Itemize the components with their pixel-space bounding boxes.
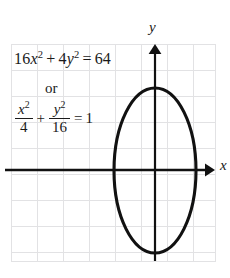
equation-general: 16x2+4y2=64 [14, 50, 111, 68]
equation-general-equals: = [82, 50, 91, 67]
equation-general-var-x: x [30, 50, 37, 67]
equation-general-rhs: 64 [95, 50, 111, 67]
y-axis-label: y [149, 19, 156, 36]
fraction-x-squared-over-4: x2 4 [15, 101, 33, 136]
equation-general-exp-x: 2 [38, 49, 43, 60]
equation-general-coef-x: 16 [14, 50, 30, 67]
fraction-right-denominator: 16 [49, 119, 70, 136]
x-axis-arrowhead [205, 164, 215, 177]
y-axis-arrowhead [149, 44, 162, 54]
equation-standard: x2 4 + y2 16 = 1 [14, 101, 93, 136]
fraction-left-numerator: x2 [15, 101, 33, 118]
x-axis-label: x [220, 157, 227, 174]
fraction-left-exp: 2 [25, 99, 30, 110]
equation-general-var-y: y [67, 50, 74, 67]
equation-connector: or [45, 80, 58, 97]
equation-general-plus: + [46, 50, 55, 67]
graph-plot [0, 0, 230, 278]
fraction-right-numerator: y2 [51, 101, 69, 118]
fraction-left-var: x [18, 101, 25, 117]
equation-standard-rhs: 1 [86, 110, 94, 127]
equation-standard-plus: + [37, 110, 45, 127]
fraction-right-exp: 2 [60, 99, 65, 110]
ellipse-figure: y x 16x2+4y2=64 or x2 4 + y2 16 = 1 [0, 0, 230, 278]
equation-standard-equals: = [74, 110, 82, 127]
fraction-y-squared-over-16: y2 16 [49, 101, 70, 136]
equation-general-coef-y: 4 [58, 50, 66, 67]
fraction-left-denominator: 4 [17, 119, 31, 136]
equation-general-exp-y: 2 [74, 49, 79, 60]
